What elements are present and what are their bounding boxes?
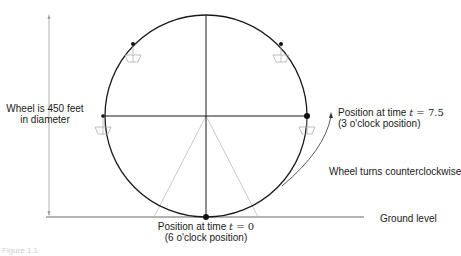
time-0-label-line1: Position at time t = 0 bbox=[146, 221, 266, 232]
point-6-oclock bbox=[203, 214, 209, 220]
diameter-label-line2: in diameter bbox=[4, 114, 86, 125]
point-3-oclock bbox=[304, 113, 310, 119]
point-upper-right bbox=[279, 42, 283, 46]
time-7-5-label-line1: Position at time t = 7.5 bbox=[338, 107, 444, 118]
point-9-oclock bbox=[101, 114, 105, 118]
figure-caption: Figure 1.1 bbox=[2, 245, 38, 256]
dimension-arrow-top-icon bbox=[48, 14, 51, 19]
rotation-label: Wheel turns counterclockwise bbox=[329, 166, 461, 177]
diameter-label-line1: Wheel is 450 feet bbox=[4, 103, 86, 114]
time-7-5-label: Position at time t = 7.5 (3 o'clock posi… bbox=[338, 107, 444, 129]
point-upper-left bbox=[131, 42, 135, 46]
time-7-5-label-line2: (3 o'clock position) bbox=[338, 118, 444, 129]
time-0-label: Position at time t = 0 (6 o'clock positi… bbox=[146, 221, 266, 243]
ground-label: Ground level bbox=[380, 213, 437, 224]
diameter-label: Wheel is 450 feet in diameter bbox=[4, 103, 86, 125]
rotation-arrowhead-icon bbox=[329, 112, 333, 118]
time-0-label-line2: (6 o'clock position) bbox=[146, 232, 266, 243]
dimension-arrow-bottom-icon bbox=[48, 211, 51, 216]
gondola-icon bbox=[95, 44, 315, 134]
